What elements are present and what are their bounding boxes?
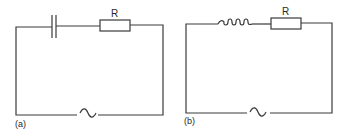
- caption-b: (b): [184, 117, 195, 126]
- resistor-b: [271, 18, 301, 29]
- circuit-b: [186, 18, 332, 116]
- wire-a-right: [98, 25, 163, 115]
- wire-b-left: [186, 24, 247, 113]
- resistor-label-b: R: [282, 7, 289, 17]
- circuit-diagrams: [0, 0, 348, 137]
- inductor-coil-b: [218, 19, 252, 25]
- resistor-label-a: R: [111, 9, 118, 19]
- wire-a-left-top: [16, 27, 77, 115]
- caption-a: (a): [15, 120, 26, 129]
- wire-b-right: [270, 23, 332, 113]
- ac-source-icon-a: [80, 109, 96, 117]
- circuit-a: [16, 15, 163, 117]
- ac-source-icon-b: [250, 108, 266, 116]
- resistor-a: [100, 20, 130, 31]
